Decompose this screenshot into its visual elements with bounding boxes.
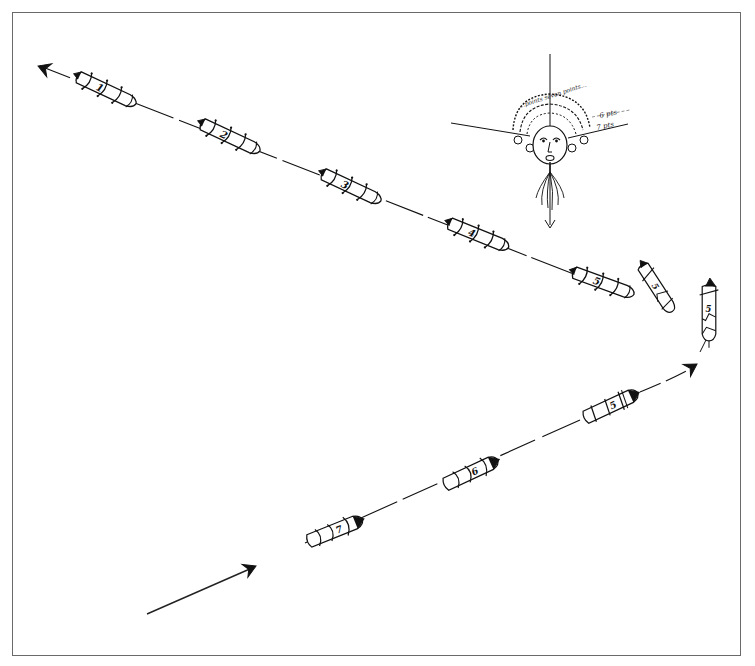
six-points-label: 6 pts — [599, 108, 618, 120]
exit-arrow-icon — [35, 59, 51, 76]
ship-number: 5 — [706, 304, 712, 314]
entry-arrowhead-icon — [242, 560, 259, 578]
ship-1: 1 — [69, 66, 140, 113]
ship-3: 3 — [314, 163, 385, 210]
arc-text: ...points seven points... — [518, 81, 587, 110]
ship-4: 4 — [441, 212, 513, 257]
lower-course-line — [305, 338, 707, 543]
ship-5b: 5 — [632, 256, 679, 316]
seven-points-label: 7 pts — [596, 120, 615, 132]
turn-arrow-icon — [683, 358, 701, 376]
ship-2: 2 — [193, 113, 264, 160]
sailing-diagram: 1 2 3 4 5 5 5 5 — [0, 0, 755, 666]
ship-7: 7 — [304, 510, 367, 550]
wind-head: ...points seven points... 6 pts 7 pts — [451, 54, 630, 228]
ship-5d: 5 — [580, 384, 643, 427]
entry-arrow — [147, 560, 259, 614]
ship-6: 6 — [440, 451, 503, 494]
ship-5a: 5 — [566, 261, 638, 304]
ship-5c: 5 — [700, 278, 719, 348]
